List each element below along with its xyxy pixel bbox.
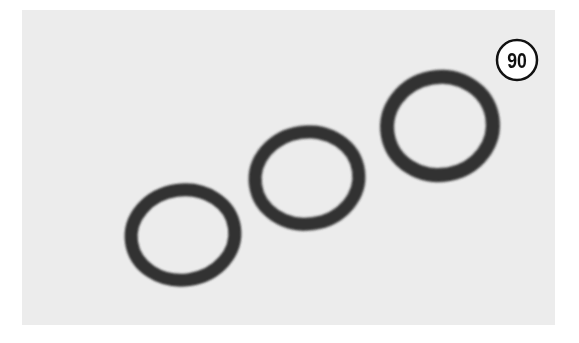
o-ring-3	[379, 69, 500, 184]
callout-label: 90	[507, 48, 527, 72]
parts-diagram: 90	[0, 0, 579, 343]
callout-badge: 90	[497, 40, 537, 80]
o-ring-1	[125, 183, 241, 287]
o-ring-2	[249, 125, 365, 231]
